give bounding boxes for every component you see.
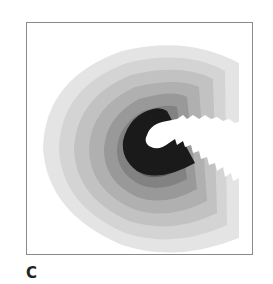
panel-label: C [26, 265, 37, 281]
right-white-margin [239, 23, 253, 255]
figure-panel: C [0, 0, 273, 284]
contour-plot [26, 22, 253, 255]
contour-plot-graphic [27, 23, 253, 255]
